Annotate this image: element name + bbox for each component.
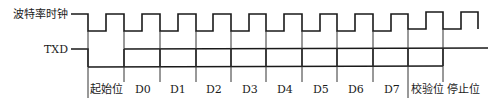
bit-label-d4: D4 [277,83,293,96]
txd-bit-transitions [124,48,443,67]
txd-idle-high [71,49,88,67]
bit-label-d3: D3 [242,83,258,96]
bit-label-d2: D2 [206,83,222,96]
baud-clock-label: 波特率时钟 [13,7,68,21]
bit-label-d0: D0 [135,83,151,96]
txd-high-rail [124,48,488,49]
bit-label-d5: D5 [313,83,329,96]
bit-label-d7: D7 [384,83,400,96]
bit-label-parity: 校验位 [411,82,444,96]
bit-label-start: 起始位 [90,82,123,96]
txd-label: TXD [44,43,68,56]
baud-clock-waveform [71,12,478,31]
timing-diagram: 波特率时钟 TXD 起始位 D0 D1 D2 D3 D4 D5 D6 [0,0,498,108]
bit-label-d1: D1 [170,83,186,96]
bit-label-stop: 停止位 [447,82,480,96]
bit-label-d6: D6 [348,83,364,96]
